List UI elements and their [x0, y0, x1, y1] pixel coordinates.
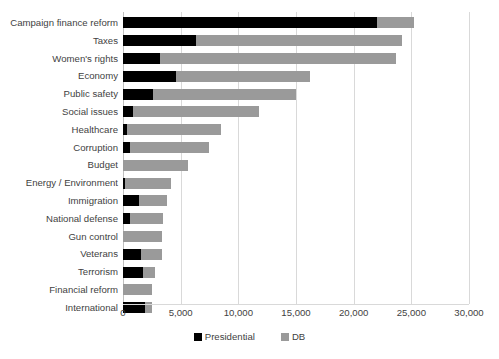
bar-row: Financial reform — [123, 281, 469, 299]
x-tick-label: 5,000 — [169, 307, 193, 318]
bar-row: Terrorism — [123, 263, 469, 281]
stacked-bar — [123, 106, 259, 117]
category-label: Budget — [88, 156, 118, 174]
legend-item-presidential[interactable]: Presidential — [194, 331, 255, 342]
bar-segment-db — [133, 106, 259, 117]
bar-row: Gun control — [123, 228, 469, 246]
stacked-bar — [123, 89, 296, 100]
category-label: National defense — [46, 210, 118, 228]
category-label: Social issues — [62, 103, 118, 121]
bar-segment-db — [160, 53, 396, 64]
bar-segment-db — [130, 213, 163, 224]
bar-segment-db — [130, 142, 210, 153]
stacked-bar — [123, 142, 209, 153]
bar-segment-db — [123, 160, 188, 171]
bar-segment-db — [377, 17, 414, 28]
bar-segment-db — [139, 195, 167, 206]
legend-swatch-icon — [281, 333, 289, 341]
legend-label: Presidential — [205, 331, 255, 342]
bar-segment-db — [196, 35, 402, 46]
bar-segment-presidential — [123, 35, 196, 46]
bar-segment-presidential — [123, 53, 160, 64]
bar-row: Budget — [123, 156, 469, 174]
legend-label: DB — [292, 331, 305, 342]
category-label: Financial reform — [49, 281, 118, 299]
bar-segment-presidential — [123, 267, 143, 278]
stacked-bar — [123, 178, 171, 189]
category-label: Immigration — [68, 192, 118, 210]
bar-segment-presidential — [123, 213, 130, 224]
x-tick-label: 0 — [120, 307, 125, 318]
stacked-bar — [123, 35, 402, 46]
bar-segment-presidential — [123, 89, 153, 100]
stacked-bar-chart: Campaign finance reformTaxesWomen's righ… — [0, 0, 499, 359]
bar-segment-presidential — [123, 249, 141, 260]
bar-segment-presidential — [123, 106, 133, 117]
category-label: Healthcare — [72, 121, 118, 139]
stacked-bar — [123, 284, 152, 295]
bar-segment-db — [153, 89, 296, 100]
bar-row: Social issues — [123, 103, 469, 121]
category-label: Women's rights — [52, 50, 118, 68]
gridline-30000 — [469, 12, 470, 304]
category-label: Campaign finance reform — [10, 14, 118, 32]
bar-segment-db — [127, 124, 221, 135]
stacked-bar — [123, 231, 162, 242]
bar-row: Energy / Environment — [123, 174, 469, 192]
category-label: Public safety — [64, 85, 118, 103]
category-label: Corruption — [73, 139, 118, 157]
bar-row: Taxes — [123, 32, 469, 50]
stacked-bar — [123, 249, 162, 260]
stacked-bar — [123, 213, 163, 224]
x-tick-label: 30,000 — [454, 307, 483, 318]
category-label: Gun control — [68, 228, 118, 246]
bar-segment-db — [123, 231, 162, 242]
bar-row: Campaign finance reform — [123, 14, 469, 32]
bar-segment-presidential — [123, 71, 176, 82]
category-label: International — [65, 299, 118, 317]
stacked-bar — [123, 71, 310, 82]
bar-row: Veterans — [123, 245, 469, 263]
bar-segment-presidential — [123, 142, 130, 153]
bar-row: Economy — [123, 67, 469, 85]
category-label: Terrorism — [78, 263, 118, 281]
chart-legend: PresidentialDB — [0, 331, 499, 342]
bar-row: Public safety — [123, 85, 469, 103]
category-label: Economy — [78, 67, 118, 85]
stacked-bar — [123, 17, 414, 28]
bar-row: Immigration — [123, 192, 469, 210]
bar-segment-db — [176, 71, 310, 82]
bar-segment-presidential — [123, 17, 377, 28]
plot-area: Campaign finance reformTaxesWomen's righ… — [123, 12, 469, 304]
bar-row: Women's rights — [123, 50, 469, 68]
x-tick-label: 10,000 — [224, 307, 253, 318]
stacked-bar — [123, 267, 155, 278]
x-tick-label: 20,000 — [339, 307, 368, 318]
x-tick-label: 25,000 — [397, 307, 426, 318]
bar-row: Healthcare — [123, 121, 469, 139]
category-label: Energy / Environment — [26, 174, 118, 192]
bar-row: Corruption — [123, 139, 469, 157]
stacked-bar — [123, 124, 221, 135]
bar-segment-presidential — [123, 195, 139, 206]
category-label: Taxes — [93, 32, 118, 50]
x-axis-line — [123, 304, 469, 305]
legend-item-db[interactable]: DB — [281, 331, 305, 342]
bar-segment-db — [143, 267, 155, 278]
x-tick-label: 15,000 — [281, 307, 310, 318]
stacked-bar — [123, 53, 396, 64]
stacked-bar — [123, 160, 188, 171]
category-label: Veterans — [80, 245, 118, 263]
bar-segment-db — [141, 249, 162, 260]
bar-segment-db — [123, 284, 152, 295]
stacked-bar — [123, 195, 167, 206]
legend-swatch-icon — [194, 333, 202, 341]
bar-segment-db — [125, 178, 171, 189]
bar-row: National defense — [123, 210, 469, 228]
